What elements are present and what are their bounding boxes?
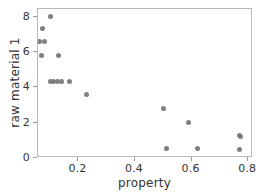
y-axis-tick-label: 4 [23, 80, 30, 93]
data-point [39, 53, 44, 58]
plot-area [37, 8, 252, 157]
y-axis-tick [33, 16, 37, 17]
y-axis-label: raw material 1 [8, 8, 22, 157]
y-axis-tick [33, 51, 37, 52]
x-axis-label: property [37, 176, 252, 190]
x-axis-tick [247, 157, 248, 161]
data-point [84, 92, 89, 97]
y-axis-tick-label: 6 [23, 45, 30, 58]
x-axis-tick-label: 0.8 [238, 162, 256, 175]
y-axis-tick [33, 122, 37, 123]
y-axis-tick [33, 86, 37, 87]
data-point [195, 146, 200, 151]
scatter-chart-figure: 0.20.40.60.8 02468 property raw material… [0, 0, 262, 194]
y-axis-tick [33, 157, 37, 158]
data-point [67, 79, 72, 84]
x-axis-tick-label: 0.6 [182, 162, 200, 175]
y-axis-tick-label: 8 [23, 9, 30, 22]
data-point [40, 26, 45, 31]
data-point [186, 120, 191, 125]
x-axis-tick [77, 157, 78, 161]
data-point [164, 146, 169, 151]
y-axis-tick-label: 2 [23, 115, 30, 128]
x-axis-tick [191, 157, 192, 161]
y-axis-tick-label: 0 [23, 151, 30, 164]
x-axis-tick-label: 0.4 [125, 162, 143, 175]
data-point [237, 147, 242, 152]
x-axis-tick-label: 0.2 [68, 162, 86, 175]
data-point [238, 134, 243, 139]
data-points-layer [38, 9, 251, 156]
data-point [59, 79, 64, 84]
data-point [161, 106, 166, 111]
data-point [42, 39, 47, 44]
data-point [48, 14, 53, 19]
data-point [56, 53, 61, 58]
x-axis-tick [134, 157, 135, 161]
